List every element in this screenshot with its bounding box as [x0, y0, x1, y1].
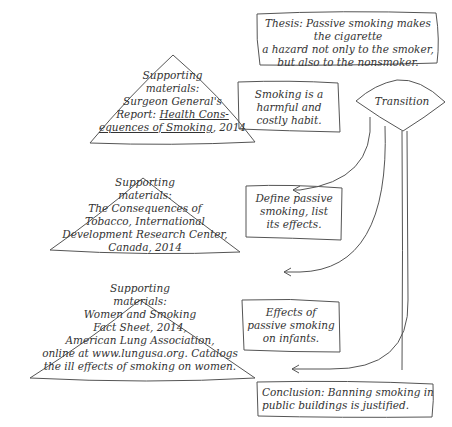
support-line: materials:: [20, 295, 260, 308]
support-line: the ill effects of smoking on women.: [20, 360, 260, 373]
support-line: Surgeon General's: [90, 95, 255, 108]
support-2-text: Supporting materials: The Consequences o…: [50, 176, 240, 254]
support-text: Report:: [116, 108, 159, 120]
support-line: online at www.lungusa.org. Catalogs: [20, 347, 260, 360]
support-line: Women and Smoking: [20, 308, 260, 321]
support-line: The Consequences of: [50, 202, 240, 215]
support-line: Supporting: [90, 69, 255, 82]
support-1-text: Supporting materials: Surgeon General's …: [90, 69, 255, 134]
support-line: materials:: [90, 82, 255, 95]
support-title: equences of Smoking: [99, 121, 213, 133]
support-line: equences of Smoking, 2014: [90, 121, 255, 134]
support-line: Tobacco, International: [50, 215, 240, 228]
line-diamond-down: [402, 131, 403, 370]
support-line: Canada, 2014: [50, 241, 240, 254]
conclusion-line: Conclusion: Banning smoking in: [262, 386, 438, 399]
support-line: Report: Health Cons-: [90, 108, 255, 121]
point-line: smoking, list: [246, 205, 342, 218]
support-title: Health Cons-: [159, 108, 228, 120]
support-line: Supporting: [20, 282, 260, 295]
support-line: Supporting: [50, 176, 240, 189]
point-line: Define passive: [246, 192, 342, 205]
support-line: American Lung Association,: [20, 334, 260, 347]
thesis-line: Thesis: Passive smoking makes the cigare…: [262, 17, 434, 43]
support-line: Fact Sheet, 2014,: [20, 321, 260, 334]
transition-label: Transition: [360, 95, 444, 108]
conclusion-text: Conclusion: Banning smoking in public bu…: [258, 386, 438, 412]
thesis-line: a hazard not only to the smoker,: [262, 43, 434, 56]
support-line: materials:: [50, 189, 240, 202]
point-line: its effects.: [246, 218, 342, 231]
support-line: Development Research Center,: [50, 228, 240, 241]
thesis-text: Thesis: Passive smoking makes the cigare…: [262, 17, 434, 69]
support-text: , 2014: [213, 121, 246, 133]
thesis-line: but also to the nonsmoker.: [262, 56, 434, 69]
point-2-text: Define passive smoking, list its effects…: [246, 192, 342, 231]
arrow-to-point-2: [293, 117, 370, 190]
support-3-text: Supporting materials: Women and Smoking …: [20, 282, 260, 373]
conclusion-line: public buildings is justified.: [262, 399, 438, 412]
